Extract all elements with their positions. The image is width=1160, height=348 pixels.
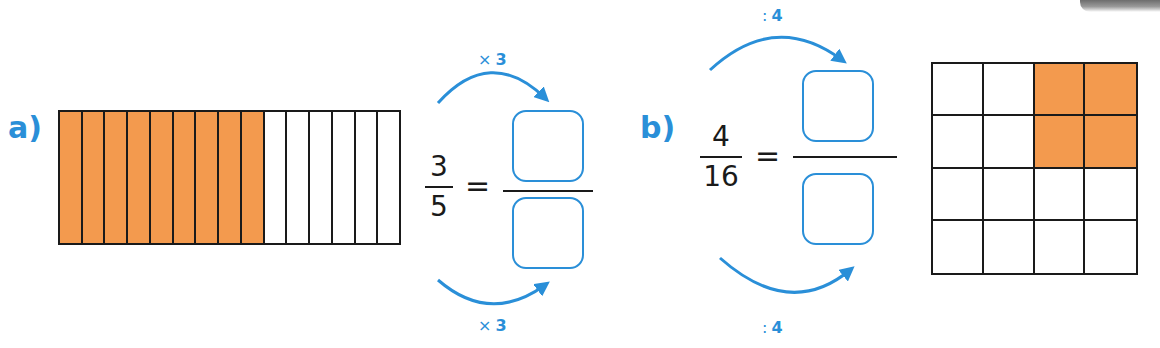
curved-arrow-icon [438,280,545,304]
curved-arrow-icon [720,258,850,292]
curved-arrow-icon [438,73,545,103]
curved-arrow-icon [710,37,842,70]
